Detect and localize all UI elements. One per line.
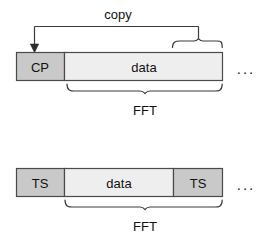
fft-brace-bottom [65,200,222,210]
copy-arrowhead-icon [30,44,38,53]
fft-label-bottom: FFT [133,220,157,233]
fft-label-top: FFT [133,104,157,117]
brace-down-path-top [67,84,222,94]
continuation-ellipsis-bottom: ... [237,176,256,193]
cp-label: CP [31,61,49,74]
diagram-vector-layer [0,0,267,246]
copy-arrow [30,27,198,53]
copy-label: copy [104,8,131,21]
data-label-top: data [131,61,156,74]
brace-up-path [173,39,223,48]
data-label-bottom: data [106,177,131,190]
figure-canvas: copy CP data ... FFT TS data TS ... FFT [0,0,267,246]
fft-brace-top [67,84,222,94]
copy-source-brace [173,39,223,48]
ts-label-left: TS [32,177,49,190]
brace-down-path-bottom [65,200,222,210]
ts-label-right: TS [190,177,207,190]
continuation-ellipsis-top: ... [237,60,256,77]
